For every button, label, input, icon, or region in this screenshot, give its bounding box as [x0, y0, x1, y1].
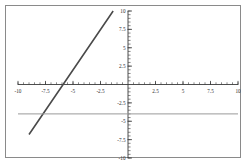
x-tick-label: 7.5: [207, 88, 214, 94]
y-tick-label: -2.5: [117, 100, 126, 106]
x-tick-label: -5: [71, 88, 76, 94]
x-tick-label: 5: [182, 88, 185, 94]
y-tick-label: -10: [119, 155, 126, 161]
y-tick-label: 7.5: [119, 26, 126, 32]
y-tick-label: -5: [121, 118, 126, 124]
x-tick-label: 10: [235, 88, 241, 94]
x-tick-label: -2.5: [96, 88, 105, 94]
plot-canvas: -10-7.5-5-2.52.557.510 107.552.5-2.5-5-7…: [0, 0, 247, 164]
graph-figure: -10-7.5-5-2.52.557.510 107.552.5-2.5-5-7…: [0, 0, 247, 164]
x-tick-label: -10: [15, 88, 22, 94]
y-tick-label: 2.5: [119, 63, 126, 69]
series-sloped-line: [29, 11, 113, 134]
x-tick-label: 2.5: [152, 88, 159, 94]
y-tick-label: 5: [123, 45, 126, 51]
y-tick-label: 10: [120, 8, 126, 14]
y-tick-label: -7.5: [117, 137, 126, 143]
x-tick-label: -7.5: [41, 88, 50, 94]
